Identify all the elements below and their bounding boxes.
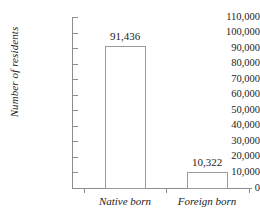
- y-tick-mark: [73, 33, 78, 34]
- x-tick-mark: [249, 189, 250, 193]
- y-tick-mark: [73, 188, 78, 189]
- bar: [187, 172, 228, 189]
- y-tick-label: 110,000: [214, 12, 260, 23]
- y-tick-label: 40,000: [214, 120, 260, 131]
- y-tick-label: 100,000: [214, 27, 260, 38]
- y-tick-mark: [73, 64, 78, 65]
- y-tick-mark: [73, 79, 78, 80]
- bar-value-label: 10,322: [167, 157, 247, 168]
- x-tick-mark: [84, 189, 85, 193]
- x-category-label: Native born: [80, 196, 170, 207]
- y-tick-label: 30,000: [214, 136, 260, 147]
- y-axis-line: [72, 17, 73, 189]
- y-tick-label: 80,000: [214, 58, 260, 69]
- y-tick-mark: [73, 141, 78, 142]
- y-tick-mark: [73, 172, 78, 173]
- bar-chart: Number of residents 110,000100,00090,000…: [0, 0, 260, 216]
- y-tick-mark: [73, 95, 78, 96]
- x-category-label: Foreign born: [162, 196, 252, 207]
- y-tick-mark: [73, 17, 78, 18]
- y-tick-mark: [73, 157, 78, 158]
- y-tick-mark: [73, 48, 78, 49]
- y-tick-label: 60,000: [214, 89, 260, 100]
- bar: [105, 46, 146, 189]
- y-axis-title: Number of residents: [8, 12, 20, 132]
- x-tick-mark: [166, 189, 167, 193]
- y-tick-mark: [73, 110, 78, 111]
- y-tick-label: 90,000: [214, 43, 260, 54]
- y-tick-label: 70,000: [214, 74, 260, 85]
- y-tick-label: 50,000: [214, 105, 260, 116]
- y-tick-mark: [73, 126, 78, 127]
- bar-value-label: 91,436: [85, 31, 165, 42]
